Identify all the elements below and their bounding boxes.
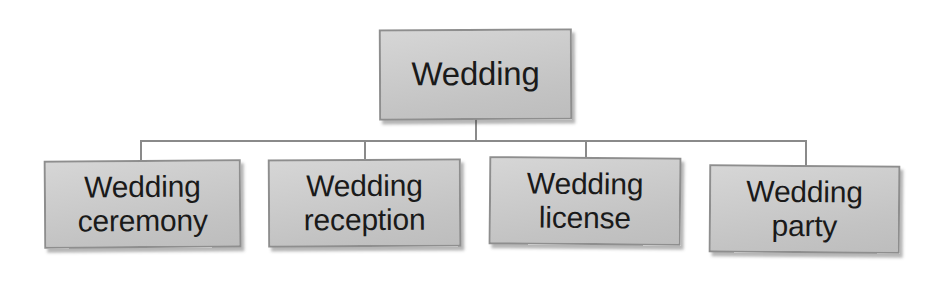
node-label: Wedding license	[522, 167, 647, 235]
connector-drop-party	[805, 140, 807, 166]
connector-horizontal-bus	[140, 140, 807, 142]
node-wedding-root: Wedding	[379, 29, 572, 121]
node-wedding-ceremony: Wedding ceremony	[44, 159, 242, 248]
node-label: Wedding ceremony	[73, 170, 212, 238]
connector-drop-license	[585, 140, 587, 158]
node-label: Wedding	[407, 56, 543, 94]
diagram-canvas: Wedding Wedding ceremony Wedding recepti…	[0, 0, 936, 288]
connector-drop-reception	[364, 140, 366, 160]
connector-drop-ceremony	[140, 140, 142, 161]
node-wedding-reception: Wedding reception	[268, 158, 461, 247]
node-wedding-license: Wedding license	[489, 156, 682, 246]
connector-root-stem	[475, 119, 477, 142]
node-label: Wedding reception	[300, 169, 430, 237]
node-wedding-party: Wedding party	[709, 164, 901, 253]
node-label: Wedding party	[742, 175, 867, 243]
